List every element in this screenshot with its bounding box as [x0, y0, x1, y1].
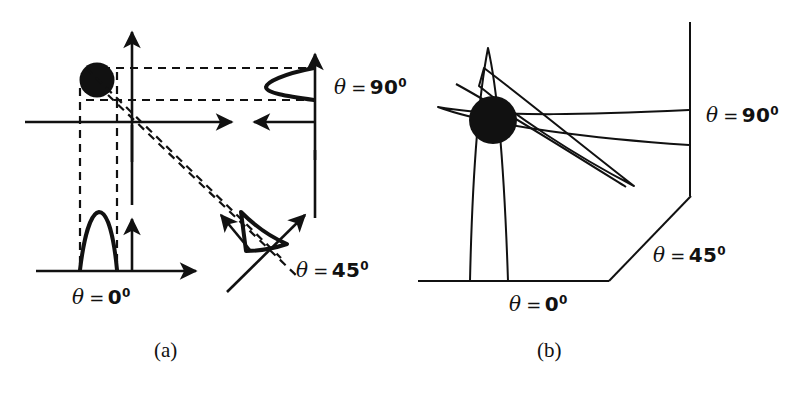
theta-symbol: θ — [653, 243, 667, 267]
panel-b-label-theta-90: θ=900 — [706, 103, 779, 127]
equals-symbol: = — [348, 77, 369, 98]
degree-superscript: 0 — [122, 286, 131, 300]
equals-symbol: = — [667, 245, 688, 266]
degree-superscript: 0 — [770, 104, 779, 118]
panel-a-label-theta-90: θ=900 — [334, 75, 407, 99]
figure-root: θ=900 θ=450 θ=00 θ=900 θ=450 θ=00 (a) (b… — [0, 0, 799, 394]
figure-canvas — [0, 0, 799, 394]
panel-a-profile-theta-0 — [80, 212, 117, 270]
panel-a-dashed-ray-45-upper — [86, 68, 281, 258]
panel-a-label-theta-45: θ=450 — [296, 258, 369, 282]
degree-superscript: 0 — [717, 244, 726, 258]
theta-symbol: θ — [706, 103, 720, 127]
panel-b-detector-axis-theta-45 — [609, 196, 691, 281]
angle-value: 90 — [742, 103, 770, 127]
panel-b-label-theta-0: θ=00 — [509, 292, 568, 316]
theta-symbol: θ — [509, 292, 523, 316]
caption-panel-a: (a) — [154, 338, 177, 363]
panel-b-label-theta-45: θ=450 — [653, 243, 726, 267]
panel-b-graphics — [418, 22, 691, 281]
equals-symbol: = — [86, 287, 107, 308]
panel-a-graphics — [25, 32, 315, 292]
panel-a-profile-theta-90 — [266, 68, 314, 100]
angle-value: 0 — [545, 292, 559, 316]
panel-a-detector-axis-theta-45 — [227, 215, 305, 292]
equals-symbol: = — [310, 260, 331, 281]
degree-superscript: 0 — [398, 76, 407, 90]
degree-superscript: 0 — [559, 293, 568, 307]
theta-symbol: θ — [72, 285, 86, 309]
angle-value: 45 — [332, 258, 360, 282]
angle-value: 90 — [370, 75, 398, 99]
angle-value: 0 — [108, 285, 122, 309]
panel-a-projection-arrow-theta-45 — [221, 215, 250, 250]
panel-b-reconstructed-object — [469, 96, 517, 144]
equals-symbol: = — [523, 294, 544, 315]
theta-symbol: θ — [334, 75, 348, 99]
panel-a-label-theta-0: θ=00 — [72, 285, 131, 309]
theta-symbol: θ — [296, 258, 310, 282]
equals-symbol: = — [720, 105, 741, 126]
degree-superscript: 0 — [360, 259, 369, 273]
caption-panel-b: (b) — [537, 338, 562, 363]
angle-value: 45 — [689, 243, 717, 267]
